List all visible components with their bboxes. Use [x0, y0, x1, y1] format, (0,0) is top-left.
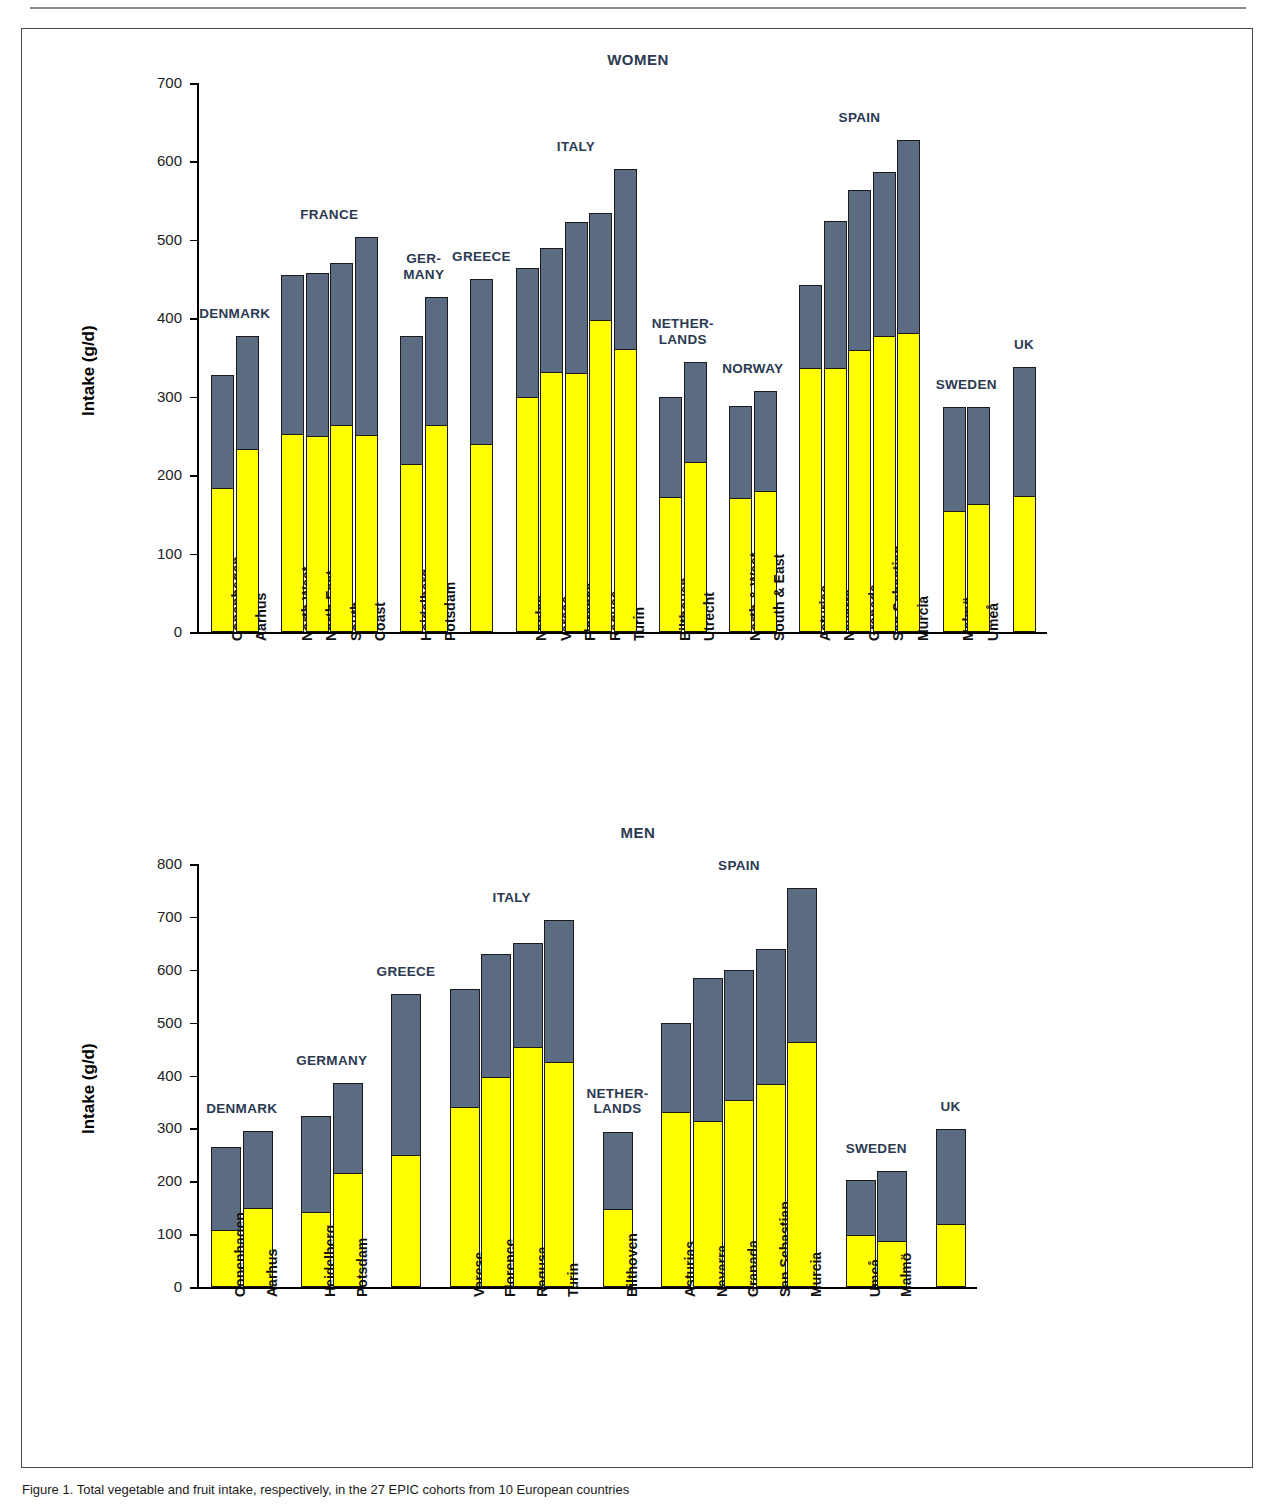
bar-segment-fruit — [566, 223, 587, 375]
bar-segment-vegetables — [937, 1224, 965, 1286]
y-axis-tick-label: 600 — [136, 961, 182, 978]
bar — [330, 263, 353, 632]
y-axis-tick-label: 700 — [136, 74, 182, 91]
y-axis — [197, 864, 199, 1289]
bar-segment-vegetables — [392, 1155, 420, 1286]
y-axis-tick — [190, 632, 197, 634]
y-axis-tick-label: 800 — [136, 855, 182, 872]
bar-segment-fruit — [847, 1181, 875, 1238]
bar-segment-fruit — [849, 191, 870, 352]
group-country-label: ITALY — [501, 139, 651, 155]
bar-segment-fruit — [898, 141, 919, 335]
bar-segment-fruit — [800, 286, 821, 370]
bar-segment-fruit — [730, 407, 751, 500]
y-axis-tick — [190, 161, 197, 163]
group-country-label: FRANCE — [254, 207, 404, 223]
chart-title: MEN — [22, 824, 1254, 841]
bar — [565, 222, 588, 632]
bar-segment-fruit — [541, 249, 562, 374]
figure-frame: WOMENIntake (g/d)0100200300400500600700C… — [21, 28, 1253, 1468]
group-country-label: SPAIN — [785, 110, 935, 126]
y-axis-tick-label: 200 — [136, 1172, 182, 1189]
x-axis-category-label: Malmö — [898, 1253, 914, 1297]
bar-segment-fruit — [545, 921, 573, 1064]
bar — [513, 943, 543, 1287]
group-country-label: SWEDEN — [801, 1141, 951, 1157]
y-axis — [197, 83, 199, 634]
bar-segment-fruit — [302, 1117, 330, 1214]
bar — [540, 248, 563, 632]
y-axis-tick — [190, 864, 197, 866]
bar-segment-fruit — [244, 1132, 272, 1210]
y-axis-tick — [190, 1023, 197, 1025]
bar-segment-vegetables — [615, 349, 636, 631]
bar-segment-fruit — [517, 269, 538, 399]
x-axis-category-label: Umeå — [985, 603, 1001, 641]
group-country-label: GREECE — [407, 249, 557, 265]
chart-title: WOMEN — [22, 51, 1254, 68]
y-axis-tick-label: 0 — [136, 1278, 182, 1295]
x-axis-category-label: Turin — [565, 1263, 581, 1297]
figure-caption: Figure 1. Total vegetable and fruit inta… — [22, 1480, 1252, 1502]
page-top-rule — [30, 7, 1246, 9]
bar-segment-fruit — [755, 392, 776, 492]
group-country-label: NETHER- LANDS — [608, 316, 758, 347]
group-country-label: SPAIN — [664, 858, 814, 874]
bar-segment-fruit — [725, 971, 753, 1102]
x-axis-category-label: Aarhus — [264, 1249, 280, 1297]
bar — [516, 268, 539, 632]
bar — [355, 237, 378, 632]
y-axis-tick — [190, 475, 197, 477]
bar-segment-vegetables — [331, 425, 352, 631]
bar-segment-fruit — [685, 363, 706, 464]
group-country-label: UK — [949, 337, 1099, 353]
bar-segment-fruit — [788, 889, 816, 1043]
x-axis — [197, 632, 1047, 634]
y-axis-tick-label: 400 — [136, 1067, 182, 1084]
bar — [391, 994, 421, 1287]
bar — [589, 213, 612, 632]
x-axis-category-label: Murcia — [915, 596, 931, 641]
y-axis-tick-label: 500 — [136, 231, 182, 248]
bar-segment-fruit — [660, 398, 681, 499]
bar-segment-fruit — [482, 955, 510, 1078]
bar — [614, 169, 637, 632]
bar-segment-vegetables — [788, 1042, 816, 1286]
bar-segment-fruit — [334, 1084, 362, 1175]
y-axis-tick-label: 100 — [136, 545, 182, 562]
bar-segment-vegetables — [541, 372, 562, 631]
bar-segment-fruit — [514, 944, 542, 1049]
bar-segment-fruit — [604, 1133, 632, 1212]
bar-segment-fruit — [874, 173, 895, 338]
bar-segment-fruit — [825, 222, 846, 370]
bar-segment-fruit — [944, 408, 965, 513]
bar-segment-vegetables — [590, 320, 611, 631]
bar — [824, 221, 847, 632]
y-axis-tick — [190, 1181, 197, 1183]
bar — [848, 190, 871, 632]
y-axis-tick-label: 300 — [136, 388, 182, 405]
x-axis — [197, 1287, 977, 1289]
y-axis-tick — [190, 397, 197, 399]
y-axis-tick — [190, 970, 197, 972]
x-axis-category-label: South & East — [771, 554, 787, 641]
y-axis-label: Intake (g/d) — [79, 325, 99, 416]
y-axis-tick — [190, 554, 197, 556]
bar-segment-fruit — [392, 995, 420, 1157]
group-country-label: ITALY — [437, 890, 587, 906]
y-axis-label: Intake (g/d) — [79, 1043, 99, 1134]
y-axis-tick — [190, 917, 197, 919]
group-country-label: DENMARK — [167, 1101, 317, 1117]
figure-page: WOMENIntake (g/d)0100200300400500600700C… — [0, 0, 1274, 1504]
y-axis-tick-label: 100 — [136, 1225, 182, 1242]
x-axis-category-label: Turin — [631, 607, 647, 641]
bar — [936, 1129, 966, 1287]
y-axis-tick-label: 300 — [136, 1119, 182, 1136]
y-axis-tick-label: 200 — [136, 466, 182, 483]
bar-segment-fruit — [237, 337, 258, 452]
bar — [693, 978, 723, 1287]
bar-segment-fruit — [590, 214, 611, 321]
y-axis-tick-label: 0 — [136, 623, 182, 640]
bar-segment-fruit — [331, 264, 352, 426]
bar-segment-fruit — [662, 1024, 690, 1114]
